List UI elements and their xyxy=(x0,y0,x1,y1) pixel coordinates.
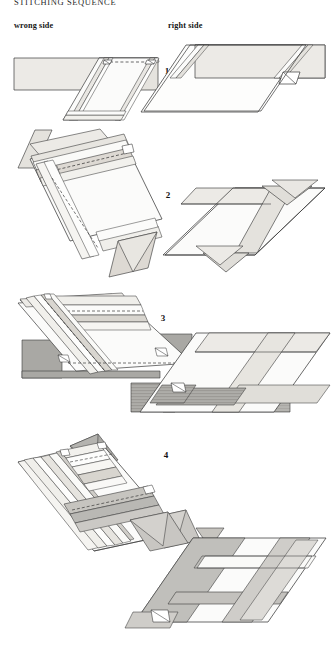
stitching-sequence-illustrations xyxy=(0,0,333,664)
step-number-3: 3 xyxy=(156,313,170,323)
step-3-right-side-figure xyxy=(131,333,330,412)
step-number-2: 2 xyxy=(161,190,175,200)
step-2-wrong-side-figure xyxy=(18,129,162,277)
instruction-page: STITCHING SEQUENCE wrong side right side… xyxy=(0,0,333,664)
step-1-wrong-side-figure xyxy=(14,58,159,121)
step-3-wrong-side-figure xyxy=(18,293,192,378)
step-2-right-side-figure xyxy=(163,180,325,272)
column-label-wrong-side: wrong side xyxy=(14,21,53,30)
page-title: STITCHING SEQUENCE xyxy=(14,0,116,7)
step-1-right-side-figure xyxy=(130,45,325,112)
step-number-1: 1 xyxy=(160,66,174,76)
step-number-4: 4 xyxy=(159,450,173,460)
column-label-right-side: right side xyxy=(168,21,202,30)
step-4-right-side-figure xyxy=(125,512,326,628)
